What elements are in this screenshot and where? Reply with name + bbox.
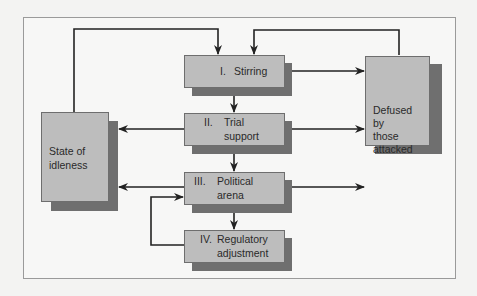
node-stirring: I. Stirring [184,55,285,88]
node-state-of-idleness: State of idleness [41,112,109,202]
node-political-arena: III. Political arena [184,172,285,205]
defused-line1: Defused [373,104,412,117]
node-defused: Defused by those attacked [365,56,430,146]
defused-line4: attacked [373,143,413,156]
defused-line2: by [373,117,384,130]
regulatory-adjustment-line2: adjustment [217,247,268,260]
idleness-line1: State of [49,145,85,158]
node-trial-support: II. Trial support [184,113,285,146]
political-arena-numeral: III. [194,175,206,188]
stirring-label: Stirring [234,65,267,78]
idleness-line2: idleness [49,159,88,172]
defused-line3: those [373,130,399,143]
political-arena-line1: Political [217,175,253,188]
regulatory-adjustment-numeral: IV. [200,233,212,246]
node-regulatory-adjustment: IV. Regulatory adjustment [184,230,285,263]
political-arena-line2: arena [217,189,244,202]
stirring-numeral: I. [220,65,226,78]
trial-support-line1: Trial [224,116,244,129]
trial-support-line2: support [224,130,259,143]
regulatory-adjustment-line1: Regulatory [217,233,268,246]
trial-support-numeral: II. [204,116,213,129]
